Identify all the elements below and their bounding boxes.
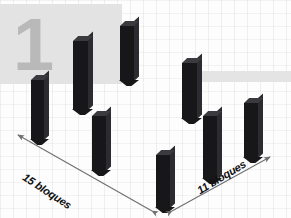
axis-line-left xyxy=(18,135,152,211)
figure-canvas: 1 15 bloques 11 bloques xyxy=(0,0,291,218)
